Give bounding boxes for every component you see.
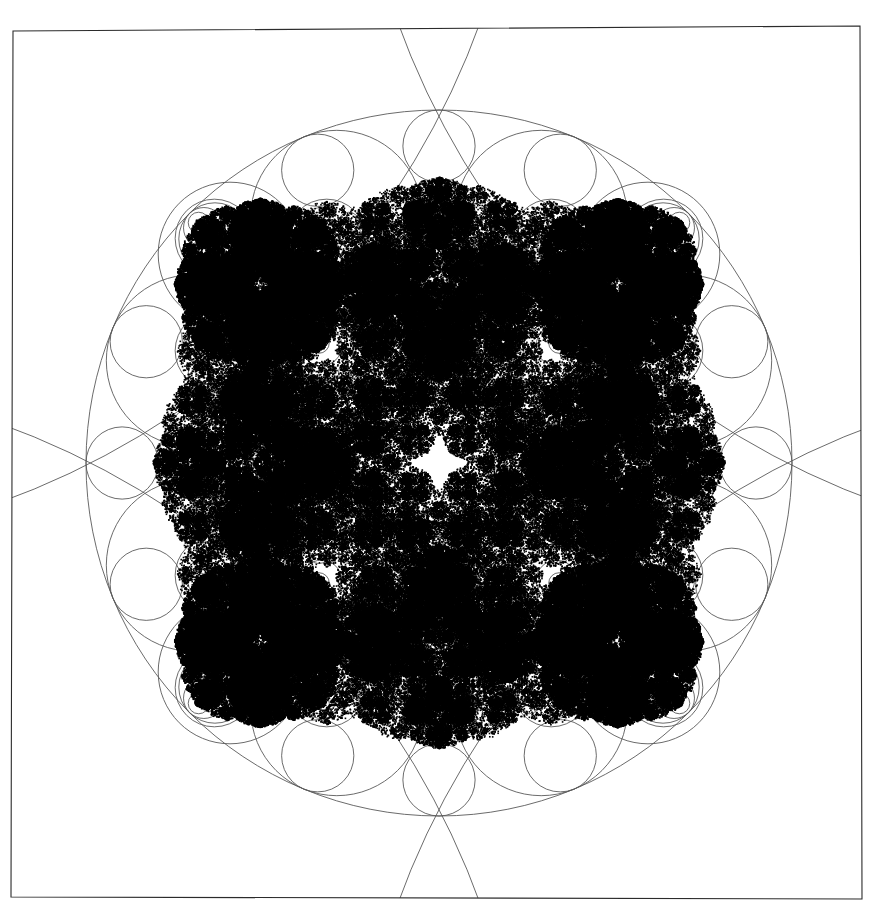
limit-set-canvas [0,0,888,919]
figure-root: Kleinian group limit set with Schottky c… [0,0,888,919]
